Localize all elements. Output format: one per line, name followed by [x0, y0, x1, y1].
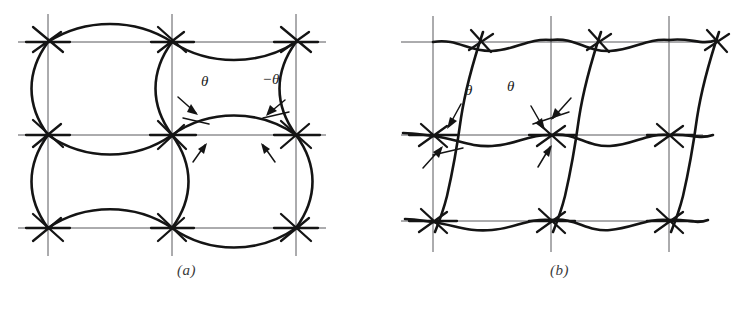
bond-horizontal	[433, 40, 551, 51]
node-tick	[647, 209, 693, 233]
node-ticks-a	[26, 27, 320, 241]
panel-a-caption: (a)	[0, 262, 373, 279]
bond-vertical	[435, 32, 483, 232]
bond-horizontal	[172, 116, 296, 136]
bond-horizontal	[172, 228, 296, 248]
node-tick	[647, 124, 693, 147]
angle-label-theta: θ	[201, 73, 208, 90]
node-tick	[587, 30, 611, 52]
bond-horizontal	[172, 42, 296, 60]
bond-horizontal	[551, 135, 669, 146]
bond-vertical	[671, 32, 719, 232]
angle-label-theta-left: θ	[465, 82, 472, 99]
deformed-bonds-b	[403, 32, 719, 232]
bond-horizontal	[48, 135, 172, 155]
panel-b: θ θ (b)	[373, 0, 746, 311]
angle-label-theta-right: θ	[507, 78, 514, 95]
node-tick	[469, 30, 493, 52]
bond-horizontal	[551, 40, 669, 51]
node-tick	[529, 209, 575, 233]
bond-horizontal	[48, 209, 172, 228]
angle-arrow-head	[447, 117, 457, 129]
angle-arrows-a	[178, 97, 289, 162]
angle-arrow-head	[266, 105, 277, 116]
angle-label-negative-theta: −θ	[262, 71, 280, 88]
figure-root: θ −θ (a)	[0, 0, 746, 311]
bond-vertical	[296, 135, 313, 228]
bond-horizontal	[48, 24, 172, 42]
panel-a: θ −θ (a)	[0, 0, 373, 311]
panel-b-caption: (b)	[373, 262, 746, 279]
node-tick	[529, 124, 575, 147]
bond-vertical	[553, 32, 601, 232]
